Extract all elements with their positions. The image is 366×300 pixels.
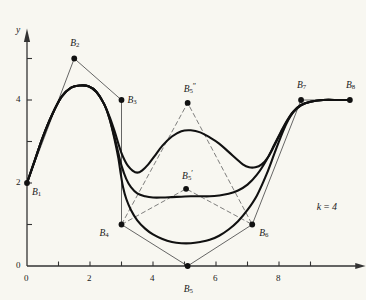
- plot-canvas: [0, 0, 366, 300]
- point-marker-B4: [119, 222, 125, 228]
- x-axis-arrow: [355, 263, 365, 269]
- parameter-annotation: k = 4: [317, 202, 337, 212]
- y-tick-label-4: 4: [16, 95, 21, 104]
- label-B7: B7: [297, 81, 306, 91]
- x-tick-label-0: 0: [24, 274, 29, 283]
- point-marker-B1: [24, 180, 30, 186]
- point-marker-B8: [347, 97, 353, 103]
- y-tick-label-2: 2: [16, 178, 21, 187]
- label-B2: B2: [70, 39, 79, 49]
- label-B8: B8: [346, 81, 355, 91]
- x-tick-label-2: 2: [87, 274, 92, 283]
- point-marker-B2: [71, 56, 77, 62]
- poly-b5-double-prime: [122, 103, 253, 225]
- x-tick-label-6: 6: [213, 274, 218, 283]
- label-B5-double-prime: B5″: [184, 83, 196, 95]
- point-marker-B5-double-prime: [185, 100, 191, 106]
- point-marker-B5-prime: [183, 186, 189, 192]
- y-axis-label: y: [16, 26, 20, 36]
- label-B5: B5: [184, 285, 193, 295]
- point-marker-B5: [185, 263, 191, 269]
- point-marker-B6: [249, 222, 255, 228]
- y-tick-label-0: 0: [16, 261, 21, 270]
- point-marker-B3: [119, 97, 125, 103]
- axis-lines: [24, 29, 366, 269]
- point-marker-B7: [298, 97, 304, 103]
- label-B1: B1: [32, 188, 41, 198]
- y-axis-arrow: [24, 29, 30, 42]
- spline-B5-at-y0: [27, 85, 350, 243]
- label-B5-prime: B5′: [182, 170, 193, 182]
- bspline-figure: 02468024xyB1B2B3B4B5B6B7B8B5′B5″ k = 4: [0, 0, 366, 300]
- spline-curves: [27, 85, 350, 243]
- x-tick-label-8: 8: [276, 274, 281, 283]
- x-tick-label-4: 4: [150, 274, 155, 283]
- label-B3: B3: [128, 96, 137, 106]
- label-B6: B6: [259, 229, 268, 239]
- label-B4: B4: [100, 229, 109, 239]
